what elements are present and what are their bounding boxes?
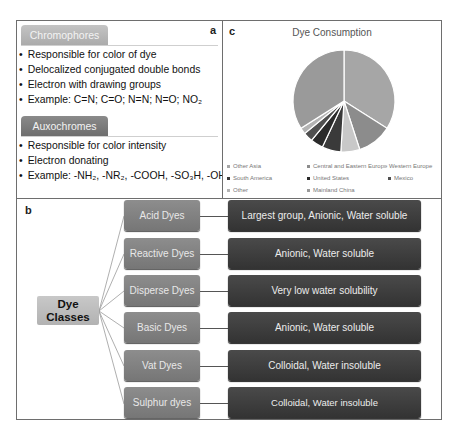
legend-item: Other xyxy=(227,187,248,193)
legend-swatch xyxy=(307,165,310,168)
legend-item: Western Europe xyxy=(383,163,432,169)
chromophores-list: Responsible for color of dye Delocalized… xyxy=(19,47,202,107)
legend-label: United States xyxy=(313,175,349,181)
chromophores-bullet: Example: C=N; C=O; N=N; N=O; NO₂ xyxy=(19,92,202,107)
class-acid-dyes: Acid Dyes xyxy=(124,200,200,231)
legend-item: Central and Eastern Europe xyxy=(307,163,387,169)
panel-a-chromophores-auxochromes: a Chromophores Responsible for color of … xyxy=(16,20,223,199)
legend-label: Other Asia xyxy=(233,163,261,169)
connector-line xyxy=(200,216,228,217)
legend-swatch xyxy=(388,177,391,180)
connector-line xyxy=(200,254,228,255)
auxochromes-bullet: Electron donating xyxy=(19,153,226,168)
legend-label: Mexico xyxy=(394,175,413,181)
chromophores-bullet: Responsible for color of dye xyxy=(19,47,202,62)
legend-label: Central and Eastern Europe xyxy=(313,163,387,169)
class-reactive-dyes: Reactive Dyes xyxy=(124,238,200,269)
legend-item: South America xyxy=(227,175,272,181)
class-vat-dyes: Vat Dyes xyxy=(124,350,200,381)
connector-line xyxy=(200,366,228,367)
chromophores-bullet: Delocalized conjugated double bonds xyxy=(19,62,202,77)
desc-reactive-dyes: Anionic, Water soluble xyxy=(228,238,421,269)
root-line-2: Classes xyxy=(37,311,99,324)
panel-b-label: b xyxy=(25,204,32,216)
pie-chart xyxy=(291,48,397,154)
legend-item: United States xyxy=(307,175,349,181)
panel-c-dye-consumption-chart: c Dye Consumption Other Asia Central and… xyxy=(222,20,442,199)
legend-item: Mainland China xyxy=(307,187,355,193)
desc-basic-dyes: Anionic, Water soluble xyxy=(228,312,421,343)
connector-line xyxy=(200,328,228,329)
class-disperse-dyes: Disperse Dyes xyxy=(124,275,200,306)
legend-swatch xyxy=(383,165,386,168)
dye-classes-root: Dye Classes xyxy=(37,296,99,325)
legend-item: Mexico xyxy=(388,175,413,181)
desc-vat-dyes: Colloidal, Water insoluble xyxy=(228,350,421,381)
auxochromes-bullet: Example: -NH₂, -NR₂, -COOH, -SO₃H, -OH xyxy=(19,168,226,183)
desc-disperse-dyes: Very low water solubility xyxy=(228,275,421,306)
legend-label: Western Europe xyxy=(389,163,432,169)
legend-label: Other xyxy=(233,187,248,193)
legend-swatch xyxy=(307,189,310,192)
desc-acid-dyes: Largest group, Anionic, Water soluble xyxy=(228,200,421,231)
chromophores-divider xyxy=(21,45,218,46)
chromophores-header: Chromophores xyxy=(21,25,108,45)
chart-title: Dye Consumption xyxy=(223,27,441,38)
root-line-1: Dye xyxy=(37,298,99,311)
class-basic-dyes: Basic Dyes xyxy=(124,312,200,343)
legend-label: South America xyxy=(233,175,272,181)
connector-line xyxy=(200,403,228,404)
legend-label: Mainland China xyxy=(313,187,355,193)
auxochromes-bullet: Responsible for color intensity xyxy=(19,138,226,153)
connector-line xyxy=(200,291,228,292)
panel-a-label: a xyxy=(210,24,216,36)
auxochromes-header: Auxochromes xyxy=(21,116,108,136)
legend-swatch xyxy=(227,165,230,168)
legend-swatch xyxy=(307,177,310,180)
chromophores-bullet: Electron with drawing groups xyxy=(19,77,202,92)
legend-swatch xyxy=(227,189,230,192)
auxochromes-list: Responsible for color intensity Electron… xyxy=(19,138,226,183)
legend-swatch xyxy=(227,177,230,180)
class-sulphur-dyes: Sulphur dyes xyxy=(124,387,200,418)
auxochromes-divider xyxy=(21,136,218,137)
legend-item: Other Asia xyxy=(227,163,261,169)
desc-sulphur-dyes: Colloidal, Water insoluble xyxy=(228,387,421,418)
